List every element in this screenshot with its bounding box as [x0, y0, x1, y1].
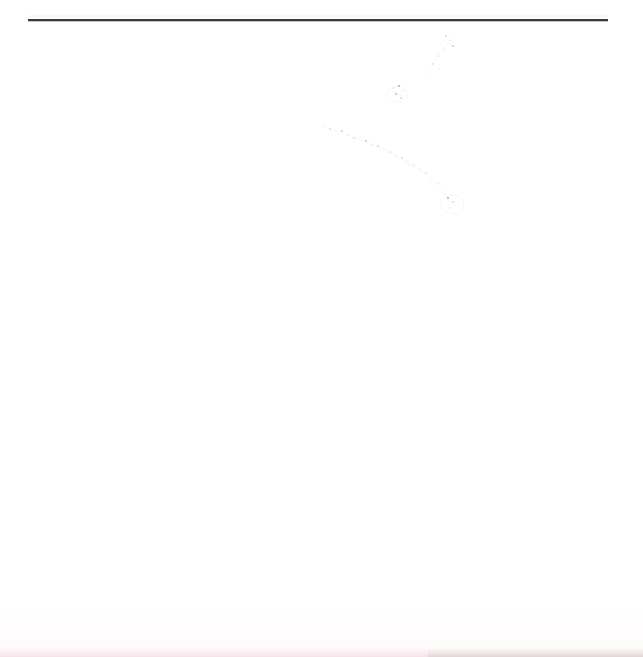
rule-halo: [28, 15, 608, 18]
horizontal-rule: [28, 19, 608, 21]
paper-background: [0, 0, 643, 657]
scanned-page: [0, 0, 643, 657]
bottom-edge-tint-right: [428, 648, 643, 657]
